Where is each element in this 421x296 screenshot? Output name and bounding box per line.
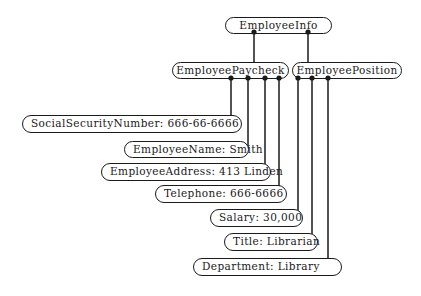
connector-dot-icon bbox=[228, 75, 233, 80]
connector-dot-icon bbox=[251, 29, 256, 34]
connector-dot-icon bbox=[325, 75, 330, 80]
connector-dot-icon bbox=[262, 75, 267, 80]
connector-dot-icon bbox=[295, 75, 300, 80]
connector-dot-icon bbox=[309, 75, 314, 80]
employee-info-diagram: EmployeeInfo EmployeePaycheck EmployeePo… bbox=[0, 0, 421, 296]
connector-dot-icon bbox=[305, 29, 310, 34]
connector-dot-icon bbox=[245, 75, 250, 80]
connector-dot-icon bbox=[276, 75, 281, 80]
connector-dots bbox=[0, 0, 421, 296]
